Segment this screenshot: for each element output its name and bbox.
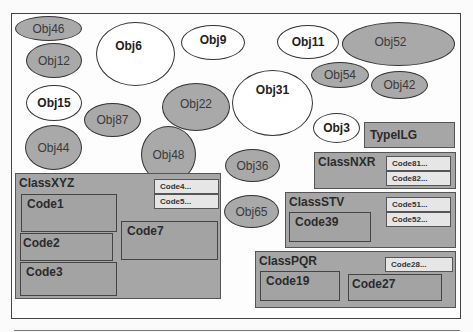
code-stub-code28[interactable]: Code28... bbox=[385, 257, 453, 272]
code-label: Code7 bbox=[127, 224, 164, 238]
object-label: Obj9 bbox=[200, 33, 227, 47]
object-obj9[interactable]: Obj9 bbox=[181, 25, 245, 60]
code-label: Code1 bbox=[27, 197, 64, 211]
object-label: Obj52 bbox=[374, 35, 406, 49]
code-block-code39[interactable]: Code39 bbox=[289, 212, 371, 242]
code-label: Code2 bbox=[23, 236, 60, 250]
class-pqr[interactable]: ClassPQR Code28... Code19 Code27 bbox=[255, 251, 456, 308]
class-title: ClassNXR bbox=[318, 155, 375, 169]
object-obj42[interactable]: Obj42 bbox=[371, 71, 428, 99]
code-stub-code5[interactable]: Code5... bbox=[154, 194, 219, 209]
object-label: Obj15 bbox=[37, 96, 70, 110]
code-stub-code52[interactable]: Code52... bbox=[386, 212, 451, 227]
object-label: Obj44 bbox=[37, 141, 69, 155]
bottom-divider bbox=[14, 330, 460, 331]
object-label: Obj6 bbox=[115, 39, 142, 53]
object-label: Obj87 bbox=[96, 113, 128, 127]
object-obj22[interactable]: Obj22 bbox=[162, 83, 230, 131]
object-label: Obj36 bbox=[236, 159, 268, 173]
code-block-code2[interactable]: Code2 bbox=[20, 233, 113, 261]
class-title: ClassSTV bbox=[289, 195, 344, 209]
object-label: Obj54 bbox=[324, 68, 356, 82]
object-obj36[interactable]: Obj36 bbox=[225, 149, 280, 182]
object-obj31[interactable]: Obj31 bbox=[232, 70, 313, 136]
object-obj6[interactable]: Obj6 bbox=[96, 22, 175, 86]
object-label: Obj12 bbox=[38, 54, 70, 68]
object-obj87[interactable]: Obj87 bbox=[84, 103, 141, 137]
code-label: Code27 bbox=[352, 277, 395, 291]
object-label: Obj11 bbox=[292, 35, 325, 49]
type-label: TypeILG bbox=[370, 128, 417, 142]
object-label: Obj3 bbox=[323, 121, 350, 135]
code-block-code3[interactable]: Code3 bbox=[20, 262, 117, 296]
object-label: Obj42 bbox=[383, 78, 415, 92]
code-label: Code39 bbox=[295, 215, 338, 229]
object-obj12[interactable]: Obj12 bbox=[26, 43, 82, 78]
object-label: Obj31 bbox=[256, 83, 289, 97]
object-obj52[interactable]: Obj52 bbox=[342, 22, 455, 66]
code-label: Code3 bbox=[26, 265, 63, 279]
code-stub-code81[interactable]: Code81... bbox=[386, 156, 451, 171]
object-obj46[interactable]: Obj46 bbox=[15, 16, 82, 41]
object-obj54[interactable]: Obj54 bbox=[311, 62, 369, 88]
code-label: Code19 bbox=[266, 274, 309, 288]
object-obj44[interactable]: Obj44 bbox=[25, 125, 82, 170]
code-block-code7[interactable]: Code7 bbox=[121, 221, 218, 260]
object-obj11[interactable]: Obj11 bbox=[277, 25, 339, 59]
class-nxr[interactable]: ClassNXR Code81... Code82... bbox=[314, 152, 456, 189]
code-stub-code82[interactable]: Code82... bbox=[386, 171, 451, 186]
code-block-code27[interactable]: Code27 bbox=[348, 274, 442, 301]
code-block-code19[interactable]: Code19 bbox=[260, 271, 340, 301]
object-obj15[interactable]: Obj15 bbox=[26, 85, 82, 121]
object-label: Obj65 bbox=[235, 205, 267, 219]
code-block-code1[interactable]: Code1 bbox=[21, 194, 117, 232]
object-obj65[interactable]: Obj65 bbox=[224, 195, 279, 228]
code-stub-code51[interactable]: Code51... bbox=[386, 197, 451, 212]
class-title: ClassXYZ bbox=[19, 176, 74, 190]
object-label: Obj46 bbox=[32, 22, 64, 36]
code-stub-code4[interactable]: Code4... bbox=[154, 179, 219, 194]
object-label: Obj22 bbox=[180, 97, 212, 111]
object-obj3[interactable]: Obj3 bbox=[313, 113, 360, 143]
class-xyz[interactable]: ClassXYZ Code4... Code5... Code1 Code2 C… bbox=[15, 173, 221, 299]
class-title: ClassPQR bbox=[259, 254, 317, 268]
object-label: Obj48 bbox=[152, 148, 184, 162]
class-stv[interactable]: ClassSTV Code51... Code52... Code39 bbox=[285, 192, 456, 248]
type-box-typeilg[interactable]: TypeILG bbox=[364, 122, 455, 148]
